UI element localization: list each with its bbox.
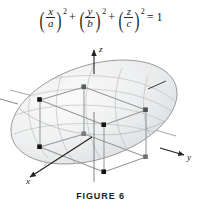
denominator-b: b — [85, 17, 95, 29]
fraction-y-over-b: yb — [85, 6, 95, 29]
y-axis-label: y — [186, 152, 191, 162]
denominator-a: a — [46, 17, 56, 29]
fraction-x-over-a: xa — [46, 6, 56, 29]
fraction-z-over-c: zc — [124, 6, 133, 29]
x-axis-label: x — [25, 176, 30, 186]
open-paren-1: ( — [40, 7, 45, 34]
exponent-1: 2 — [63, 7, 67, 16]
box-vertex-top-right — [143, 107, 148, 112]
close-paren-2: ) — [96, 7, 101, 34]
box-vertex-bottom-front — [101, 169, 106, 174]
box-vertex-top-back — [81, 84, 86, 89]
numerator-y: y — [85, 6, 95, 17]
figure-caption: FIGURE 6 — [0, 191, 201, 201]
y-axis-ray — [160, 148, 184, 155]
plus-sign-2: + — [108, 10, 115, 25]
box-vertex-bottom-right — [143, 154, 148, 159]
box-vertex-bottom-back — [81, 131, 86, 136]
denominator-c: c — [124, 17, 133, 29]
numerator-z: z — [124, 6, 133, 17]
exponent-3: 2 — [141, 7, 145, 16]
numerator-x: x — [46, 6, 56, 17]
y-axis-negative-ray — [0, 99, 18, 104]
z-axis-label: z — [98, 44, 103, 54]
open-paren-2: ( — [79, 7, 84, 34]
open-paren-3: ( — [118, 7, 123, 34]
plus-sign-1: + — [69, 10, 76, 25]
close-paren-1: ) — [56, 7, 61, 34]
box-vertex-top-left — [37, 97, 42, 102]
box-vertex-top-front — [101, 122, 106, 127]
exponent-2: 2 — [102, 7, 106, 16]
box-vertex-bottom-left — [37, 144, 42, 149]
figure-page: (xa)2+(yb)2+(zc)2= 1 — [0, 0, 201, 216]
equals-one: = 1 — [147, 10, 163, 25]
close-paren-3: ) — [134, 7, 139, 34]
ellipsoid-diagram: z y x — [0, 42, 201, 190]
ellipsoid-equation: (xa)2+(yb)2+(zc)2= 1 — [0, 6, 201, 34]
